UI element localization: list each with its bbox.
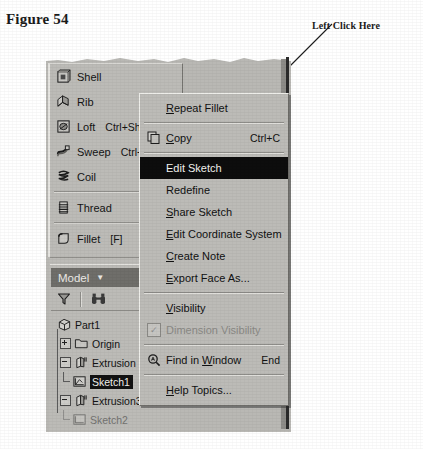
menu-item-export-face-as[interactable]: Export Face As... [140, 267, 288, 289]
toolbar-item-label: Thread [77, 202, 112, 214]
toolbar-item-shell[interactable]: Shell [50, 64, 182, 89]
menu-item-accel: End [261, 354, 280, 366]
menu-item-label: Help Topics... [166, 384, 232, 396]
menu-item-icon-slot [145, 270, 162, 286]
tree-item-sketch2[interactable]: Sketch2 [48, 410, 180, 429]
menu-item-label: Find in Window [166, 354, 241, 366]
menu-item-help-topics[interactable]: Help Topics... [140, 379, 288, 401]
tree-item-label: Extrusion3 [92, 395, 142, 407]
menu-item-dimension-visibility: ✓ Dimension Visibility [140, 319, 288, 341]
tree-item-label: Extrusion [92, 357, 136, 369]
menu-item-icon-slot [145, 182, 162, 198]
menu-item-label: Redefine [166, 184, 210, 196]
expander-plus-icon[interactable] [60, 338, 71, 349]
find-icon [145, 352, 162, 368]
expander-minus-icon[interactable] [60, 395, 71, 406]
menu-item-visibility[interactable]: Visibility [140, 297, 288, 319]
sketch-icon [72, 412, 87, 427]
tree-item-label: Origin [92, 338, 120, 350]
toolbar-item-label: Rib [77, 96, 94, 108]
extrusion-icon [74, 355, 89, 370]
toolbar-item-label: Loft [77, 121, 95, 133]
menu-item-label: Repeat Fillet [166, 102, 228, 114]
toolbar-divider [80, 292, 82, 307]
menu-item-create-note[interactable]: Create Note [140, 245, 288, 267]
toolbar-item-label: Shell [77, 71, 101, 83]
menu-item-repeat-fillet[interactable]: Repeat Fillet [140, 97, 288, 119]
menu-item-accel: Ctrl+C [250, 132, 280, 144]
toolbar-item-label: Sweep [77, 146, 111, 158]
toolbar-item-label: Fillet [77, 233, 100, 245]
shell-icon [56, 69, 71, 84]
expander-minus-icon[interactable] [60, 357, 71, 368]
toolbar-item-accel: [F] [110, 233, 122, 245]
menu-separator [144, 374, 284, 376]
menu-item-label: Create Note [166, 250, 225, 262]
menu-item-edit-coordinate-system[interactable]: Edit Coordinate System [140, 223, 288, 245]
menu-item-copy[interactable]: Copy Ctrl+C [140, 127, 288, 149]
tree-item-label: Sketch2 [90, 414, 128, 426]
menu-item-icon-slot [145, 204, 162, 220]
checkbox-checked-icon: ✓ [145, 322, 162, 338]
menu-item-find-in-window[interactable]: Find in Window End [140, 349, 288, 371]
filter-funnel-icon[interactable] [51, 289, 77, 309]
menu-separator [144, 292, 284, 294]
tree-elbow [60, 410, 72, 429]
menu-item-icon-slot [145, 226, 162, 242]
callout-label: Left Click Here [312, 20, 380, 31]
coil-icon [56, 169, 71, 184]
rib-icon [56, 94, 71, 109]
menu-item-label: Visibility [166, 302, 206, 314]
menu-item-edit-sketch[interactable]: Edit Sketch [140, 157, 288, 179]
tree-stub [48, 324, 57, 325]
menu-item-icon-slot [145, 382, 162, 398]
menu-item-label: Dimension Visibility [166, 324, 261, 336]
menu-item-label: Edit Coordinate System [166, 228, 282, 240]
folder-icon [74, 336, 89, 351]
toolbar-item-label: Coil [77, 171, 96, 183]
menu-item-icon-slot [145, 300, 162, 316]
tree-elbow [60, 372, 72, 391]
menu-item-icon-slot [145, 100, 162, 116]
extrusion-icon [74, 393, 89, 408]
chevron-down-icon[interactable]: ▼ [96, 273, 104, 282]
menu-separator [144, 344, 284, 346]
context-menu: Repeat Fillet Copy Ctrl+C Edit Sketch Re… [139, 93, 289, 406]
loft-icon [56, 119, 71, 134]
copy-icon [145, 130, 162, 146]
fillet-icon [56, 231, 71, 246]
menu-item-label: Share Sketch [166, 206, 232, 218]
menu-separator [144, 152, 284, 154]
menu-item-label: Edit Sketch [166, 162, 222, 174]
menu-item-redefine[interactable]: Redefine [140, 179, 288, 201]
binoculars-icon[interactable] [85, 289, 111, 309]
tree-item-label: Part1 [75, 319, 100, 331]
menu-item-icon-slot [145, 160, 162, 176]
sweep-icon [56, 144, 71, 159]
menu-item-share-sketch[interactable]: Share Sketch [140, 201, 288, 223]
part-icon [57, 317, 72, 332]
menu-item-label: Copy [166, 132, 192, 144]
menu-item-icon-slot [145, 248, 162, 264]
browser-header-label: Model [58, 272, 89, 284]
menu-separator [144, 122, 284, 124]
page-title: Figure 54 [6, 11, 69, 28]
tree-item-label: Sketch1 [90, 375, 133, 389]
toolbar-item-accel: Ctrl+Sh [105, 121, 140, 133]
thread-icon [56, 200, 71, 215]
menu-item-label: Export Face As... [166, 272, 250, 284]
sketch-icon [72, 374, 87, 389]
